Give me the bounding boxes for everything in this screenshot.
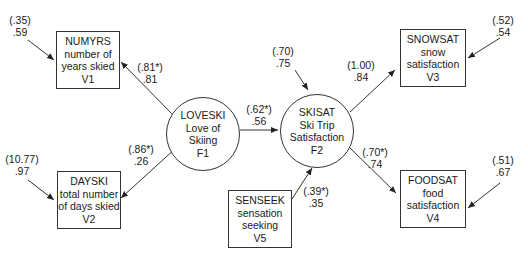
unstd-coef: (.86*) <box>119 143 163 155</box>
unstd-coef: (10.77) <box>0 153 44 165</box>
unstd-coef: (.52) <box>481 14 525 26</box>
std-coef: .84 <box>339 71 383 83</box>
factor-desc: Ski Trip <box>299 119 334 132</box>
node-desc: number of <box>64 48 111 61</box>
std-coef: .67 <box>481 166 525 178</box>
node-v1-numyrs: NUMYRS number of years skied V1 <box>56 31 120 89</box>
node-v2-dayski: DAYSKI total number of days skied V2 <box>57 171 121 229</box>
std-coef: .59 <box>0 26 42 38</box>
unstd-coef: (.81*) <box>128 61 172 73</box>
std-coef: .74 <box>353 158 397 170</box>
factor-id: F1 <box>197 147 209 160</box>
node-desc: satisfaction <box>407 199 460 212</box>
label-e3: (.52) .54 <box>481 14 525 38</box>
factor-id: F2 <box>311 144 323 157</box>
std-coef: .56 <box>237 115 281 127</box>
label-f1-v1: (.81*) .81 <box>128 61 172 85</box>
unstd-coef: (.70*) <box>353 146 397 158</box>
node-desc: snow <box>421 46 446 59</box>
label-e1: (.35) .59 <box>0 14 42 38</box>
node-desc: food <box>423 187 443 200</box>
node-id: V5 <box>254 232 267 245</box>
unstd-coef: (.51) <box>481 154 525 166</box>
node-code: NUMYRS <box>65 35 111 48</box>
node-id: V1 <box>82 73 95 86</box>
node-desc: of days skied <box>58 200 119 213</box>
node-id: V4 <box>427 212 440 225</box>
label-e2: (10.77) .97 <box>0 153 44 177</box>
unstd-coef: (.70) <box>261 45 305 57</box>
node-v5-senseek: SENSEEK sensation seeking V5 <box>228 190 292 248</box>
node-desc: years skied <box>61 60 114 73</box>
factor-desc: Satisfaction <box>290 131 344 144</box>
node-code: SNOWSAT <box>407 33 459 46</box>
label-f1-f2: (.62*) .56 <box>237 103 281 127</box>
node-v4-foodsat: FOODSAT food satisfaction V4 <box>400 170 466 228</box>
node-desc: total number <box>60 188 118 201</box>
std-coef: .75 <box>261 57 305 69</box>
factor-code: SKISAT <box>299 106 336 119</box>
factor-code: LOVESKI <box>181 109 226 122</box>
factor-f2-skisat: SKISAT Ski Trip Satisfaction F2 <box>280 94 354 168</box>
factor-f1-loveski: LOVESKI Love of Skiing F1 <box>166 97 240 171</box>
std-coef: .81 <box>128 73 172 85</box>
label-v5-f2: (.39*) .35 <box>294 185 338 209</box>
label-f2-v3: (1.00) .84 <box>339 59 383 83</box>
label-d2: (.70) .75 <box>261 45 305 69</box>
node-desc: seeking <box>242 219 278 232</box>
node-desc: sensation <box>238 207 283 220</box>
unstd-coef: (.62*) <box>237 103 281 115</box>
node-id: V2 <box>83 213 96 226</box>
label-e4: (.51) .67 <box>481 154 525 178</box>
unstd-coef: (1.00) <box>339 59 383 71</box>
std-coef: .35 <box>294 197 338 209</box>
std-coef: .97 <box>0 165 44 177</box>
unstd-coef: (.39*) <box>294 185 338 197</box>
factor-desc: Love of <box>186 122 220 135</box>
std-coef: .26 <box>119 155 163 167</box>
node-desc: satisfaction <box>407 58 460 71</box>
node-v3-snowsat: SNOWSAT snow satisfaction V3 <box>400 29 466 87</box>
unstd-coef: (.35) <box>0 14 42 26</box>
std-coef: .54 <box>481 26 525 38</box>
node-code: DAYSKI <box>70 175 108 188</box>
node-code: SENSEEK <box>235 194 285 207</box>
node-id: V3 <box>427 71 440 84</box>
factor-desc: Skiing <box>189 134 218 147</box>
label-f1-v2: (.86*) .26 <box>119 143 163 167</box>
node-code: FOODSAT <box>408 174 458 187</box>
label-f2-v4: (.70*) .74 <box>353 146 397 170</box>
